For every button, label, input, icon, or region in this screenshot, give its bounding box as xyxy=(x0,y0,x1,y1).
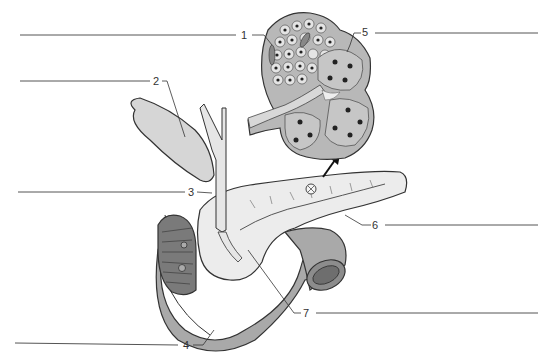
label-3: 3 xyxy=(188,186,194,198)
label-2: 2 xyxy=(153,75,159,87)
leader-6 xyxy=(345,215,371,225)
tissue-inset xyxy=(248,13,374,160)
label-5: 5 xyxy=(362,26,368,38)
answer-line-4[interactable] xyxy=(15,343,178,345)
label-1: 1 xyxy=(241,29,247,41)
label-7: 7 xyxy=(303,307,309,319)
label-6: 6 xyxy=(372,219,378,231)
pancreas-diagram: 1 2 3 4 5 6 7 xyxy=(0,0,551,363)
label-4: 4 xyxy=(183,339,189,351)
leader-3 xyxy=(197,192,212,193)
